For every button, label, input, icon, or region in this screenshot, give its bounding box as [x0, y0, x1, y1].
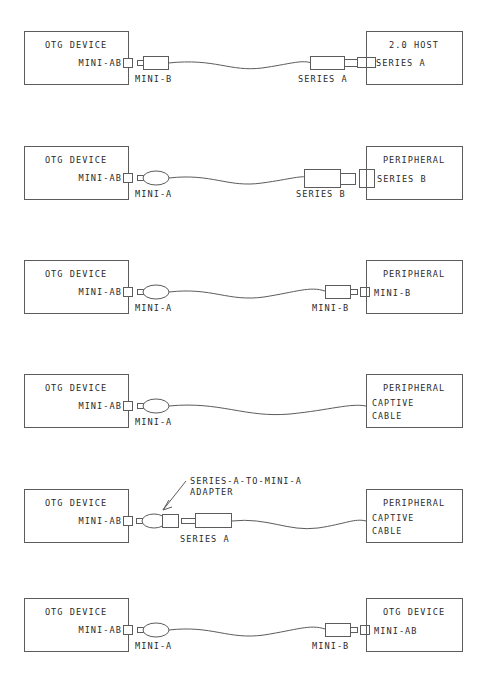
callout-arrow-line	[163, 481, 186, 510]
mini-a-plug-body	[143, 623, 169, 637]
right-device-title: PERIPHERAL	[383, 155, 445, 165]
right-connector-label: MINI-B	[312, 303, 349, 313]
diagram-row-2: OTG DEVICE MINI-AB MINI-A SERIES B PERIP…	[25, 147, 463, 200]
left-device-port-label: MINI-AB	[78, 625, 122, 635]
mini-ab-receptacle-icon	[124, 402, 133, 411]
cable-wire	[169, 627, 325, 636]
left-connector-label: MINI-A	[135, 641, 172, 651]
right-connector-label: MINI-B	[312, 641, 349, 651]
series-a-plug-body	[311, 57, 345, 70]
mini-ab-receptacle-icon	[124, 59, 133, 68]
mini-ab-receptacle-icon	[361, 626, 370, 635]
diagram-row-6: OTG DEVICE MINI-AB MINI-A MINI-B OTG DEV…	[25, 599, 463, 652]
right-device-title: 2.0 HOST	[389, 40, 439, 50]
mini-b-plug-tip	[351, 628, 358, 633]
right-connector-label: SERIES A	[298, 74, 348, 84]
diagram-row-5: OTG DEVICE MINI-AB SERIES A SERIES-A-TO-…	[25, 476, 463, 544]
mini-b-plug-body	[326, 624, 351, 637]
right-device-port-label-line1: CAPTIVE	[372, 513, 414, 523]
series-a-plug-body	[196, 514, 232, 528]
left-device-title: OTG DEVICE	[45, 383, 107, 393]
diagram-row-4: OTG DEVICE MINI-AB MINI-A PERIPHERAL CAP…	[25, 375, 463, 428]
mini-a-plug-body	[143, 285, 169, 299]
right-device-port-label: MINI-AB	[374, 626, 418, 636]
mini-b-plug-body	[326, 286, 351, 299]
mini-b-plug-tip	[351, 290, 358, 295]
captive-cable-wire	[169, 405, 366, 415]
mini-a-plug-body	[143, 399, 169, 413]
diagram-row-1: OTG DEVICE MINI-AB MINI-B SERIES A 2.0 H…	[25, 32, 463, 85]
right-device-port-label: SERIES B	[377, 174, 427, 184]
left-connector-label: MINI-A	[135, 417, 172, 427]
left-device-port-label: MINI-AB	[78, 516, 122, 526]
mini-ab-receptacle-icon	[124, 174, 133, 183]
right-device-port-label-line2: CABLE	[372, 526, 402, 536]
series-a-plug-tip	[182, 519, 196, 524]
mini-b-receptacle-icon	[361, 288, 370, 297]
left-plug-tip	[138, 61, 144, 66]
left-device-title: OTG DEVICE	[45, 40, 107, 50]
mini-ab-receptacle-icon	[124, 517, 133, 526]
mini-ab-receptacle-icon	[124, 288, 133, 297]
right-device-title: PERIPHERAL	[383, 269, 445, 279]
right-device-port-label-line2: CABLE	[372, 411, 402, 421]
left-connector-label: MINI-A	[135, 189, 172, 199]
mini-b-plug-body	[144, 57, 169, 70]
usb-otg-connection-diagram: OTG DEVICE MINI-AB MINI-B SERIES A 2.0 H…	[0, 0, 487, 684]
right-device-title: OTG DEVICE	[383, 607, 445, 617]
series-b-plug-body	[305, 170, 341, 188]
adapter-barrel	[163, 515, 179, 528]
right-connector-label: SERIES B	[296, 189, 346, 199]
right-device-port-label: MINI-B	[374, 288, 411, 298]
left-device-title: OTG DEVICE	[45, 269, 107, 279]
cable-wire	[169, 62, 311, 69]
right-device-title: PERIPHERAL	[383, 498, 445, 508]
cable-wire	[169, 289, 325, 298]
left-device-port-label: MINI-AB	[78, 401, 122, 411]
cable-wire	[169, 177, 312, 184]
left-device-title: OTG DEVICE	[45, 607, 107, 617]
left-connector-label: MINI-A	[135, 303, 172, 313]
mini-a-plug-body	[143, 171, 169, 185]
diagram-row-3: OTG DEVICE MINI-AB MINI-A MINI-B PERIPHE…	[25, 261, 463, 314]
left-connector-label: MINI-B	[135, 74, 172, 84]
callout-line-1: SERIES-A-TO-MINI-A	[190, 476, 302, 486]
left-device-title: OTG DEVICE	[45, 498, 107, 508]
series-b-plug-tip	[341, 174, 356, 185]
captive-cable-wire	[232, 520, 367, 528]
right-connector-label: SERIES A	[180, 534, 230, 544]
right-device-port-label-line1: CAPTIVE	[372, 398, 414, 408]
mini-ab-receptacle-icon	[124, 626, 133, 635]
left-device-title: OTG DEVICE	[45, 155, 107, 165]
left-device-port-label: MINI-AB	[78, 58, 122, 68]
left-device-port-label: MINI-AB	[78, 173, 122, 183]
right-device-title: PERIPHERAL	[383, 383, 445, 393]
right-device-port-label: SERIES A	[376, 58, 426, 68]
callout-line-2: ADAPTER	[190, 487, 234, 497]
left-device-port-label: MINI-AB	[78, 287, 122, 297]
